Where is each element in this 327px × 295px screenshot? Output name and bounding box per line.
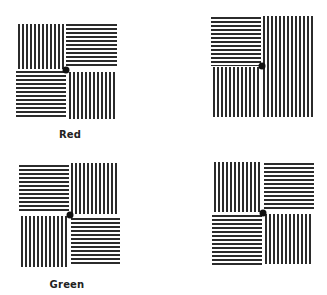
quadrant-top-right-vertical-stripes — [263, 16, 313, 67]
quadrant-top-right-vertical-stripes — [71, 163, 118, 214]
quadrant-bottom-right-vertical-stripes — [263, 67, 313, 117]
quadrant-bottom-left-horizontal-stripes — [212, 215, 262, 265]
quadrant-top-left-vertical-stripes — [214, 162, 262, 212]
panel-caption-green: Green — [50, 279, 85, 290]
quadrant-top-right-horizontal-stripes — [66, 24, 117, 68]
quadrant-bottom-right-vertical-stripes — [265, 214, 313, 264]
quadrant-bottom-left-vertical-stripes — [213, 67, 261, 117]
quadrant-top-left-horizontal-stripes — [19, 165, 69, 213]
quadrant-bottom-right-horizontal-stripes — [71, 218, 120, 266]
fixation-dot — [260, 210, 267, 217]
quadrant-bottom-left-vertical-stripes — [21, 216, 69, 267]
quadrant-bottom-left-horizontal-stripes — [16, 71, 66, 119]
panel-caption-red: Red — [59, 129, 81, 140]
quadrant-bottom-right-vertical-stripes — [69, 72, 116, 119]
quadrant-top-right-horizontal-stripes — [264, 163, 314, 211]
fixation-dot — [63, 67, 70, 74]
fixation-dot — [259, 63, 266, 70]
fixation-dot — [67, 212, 74, 219]
quadrant-top-left-vertical-stripes — [18, 24, 64, 69]
quadrant-top-left-horizontal-stripes — [211, 17, 261, 66]
